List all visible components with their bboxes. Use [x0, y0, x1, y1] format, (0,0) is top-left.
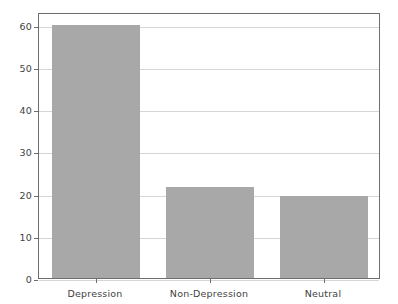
y-tick-label: 10	[4, 231, 32, 242]
y-tick-label: 40	[4, 105, 32, 116]
plot-area	[38, 13, 380, 279]
bar	[280, 196, 368, 278]
x-category-label: Depression	[67, 288, 122, 299]
x-tick-mark	[96, 279, 97, 283]
y-tick-mark	[34, 280, 38, 281]
y-tick-mark	[34, 69, 38, 70]
x-category-label: Non-Depression	[170, 288, 248, 299]
y-tick-mark	[34, 153, 38, 154]
gridline	[39, 280, 379, 281]
y-tick-mark	[34, 111, 38, 112]
bar	[166, 187, 254, 278]
y-tick-mark	[34, 27, 38, 28]
y-tick-label: 60	[4, 20, 32, 31]
bar	[52, 25, 140, 278]
y-tick-label: 20	[4, 189, 32, 200]
y-tick-label: 50	[4, 62, 32, 73]
bar-chart-figure: 0102030405060 DepressionNon-DepressionNe…	[0, 0, 398, 304]
y-tick-mark	[34, 196, 38, 197]
y-tick-label: 0	[4, 274, 32, 285]
x-tick-mark	[210, 279, 211, 283]
y-tick-mark	[34, 238, 38, 239]
x-category-label: Neutral	[305, 288, 341, 299]
y-tick-label: 30	[4, 147, 32, 158]
x-tick-mark	[324, 279, 325, 283]
